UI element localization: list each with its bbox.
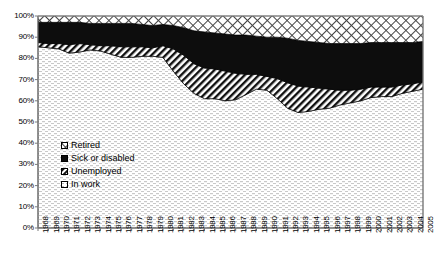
y-axis-tick-label: 80% [19,53,34,62]
y-axis-tick-label: 0% [23,223,34,232]
legend-item-label: Sick or disabled [71,154,135,163]
legend-item-label: Retired [71,141,100,150]
x-axis-tick-label: 1969 [52,216,61,233]
x-axis-tick-label: 1996 [333,216,342,233]
x-axis-tick-label: 1993 [301,216,310,233]
y-axis-tick-label: 60% [19,96,34,105]
x-axis-tick-label: 1994 [312,216,321,233]
y-axis-tick-label: 70% [19,75,34,84]
x-axis-tick-label: 1970 [62,216,71,233]
x-axis-tick-label: 1988 [249,216,258,233]
y-axis-tick-label: 50% [19,117,34,126]
x-axis-tick-label: 1985 [218,216,227,233]
chart-canvas [0,0,442,278]
x-axis-tick-label: 1984 [208,216,217,233]
x-axis-tick-label: 2000 [374,216,383,233]
x-axis-tick-label: 1991 [281,216,290,233]
legend-item-label: Unemployed [71,167,122,176]
x-axis-tick-label: 1976 [124,216,133,233]
x-axis-tick-label: 1997 [343,216,352,233]
legend-swatch-icon [61,181,68,188]
x-axis-tick-label: 1999 [364,216,373,233]
x-axis-tick-label: 1998 [353,216,362,233]
legend-item: Retired [61,141,100,150]
x-axis-tick-label: 1986 [228,216,237,233]
x-axis-tick-label: 1990 [270,216,279,233]
x-axis-tick-label: 1981 [176,216,185,233]
legend-swatch-icon [61,155,68,162]
x-axis-tick-label: 1987 [239,216,248,233]
x-axis-tick-label: 1995 [322,216,331,233]
y-axis-tick-label: 40% [19,138,34,147]
x-axis-tick-label: 1975 [114,216,123,233]
x-axis-tick-label: 1983 [197,216,206,233]
x-axis-tick-label: 2004 [416,216,425,233]
stacked-area-chart: 0%10%20%30%40%50%60%70%80%90%100% 196819… [0,0,442,278]
x-axis-tick-label: 2001 [385,216,394,233]
x-axis-tick-label: 1972 [83,216,92,233]
x-axis-tick-label: 1973 [93,216,102,233]
x-axis-tick-label: 1980 [166,216,175,233]
y-axis-tick-label: 100% [14,11,34,20]
x-axis-tick-label: 1971 [72,216,81,233]
x-axis-tick-label: 1977 [135,216,144,233]
x-axis-tick-label: 1968 [41,216,50,233]
y-axis-tick-label: 20% [19,181,34,190]
x-axis-tick-label: 1992 [291,216,300,233]
legend-item: Unemployed [61,167,122,176]
x-axis-tick-label: 1979 [156,216,165,233]
legend-item: Sick or disabled [61,154,135,163]
x-axis-tick-label: 1978 [145,216,154,233]
legend-swatch-icon [61,168,68,175]
y-axis-tick-label: 30% [19,159,34,168]
x-axis-tick-label: 1974 [104,216,113,233]
x-axis-tick-label: 2003 [405,216,414,233]
x-axis-tick-label: 2005 [426,216,435,233]
x-axis-tick-label: 1982 [187,216,196,233]
legend-swatch-icon [61,142,68,149]
x-axis-tick-label: 2002 [395,216,404,233]
y-axis-tick-label: 10% [19,202,34,211]
legend-item: In work [61,180,100,189]
legend-item-label: In work [71,180,100,189]
y-axis-tick-label: 90% [19,32,34,41]
area-series-group [38,16,423,228]
x-axis-tick-label: 1989 [260,216,269,233]
